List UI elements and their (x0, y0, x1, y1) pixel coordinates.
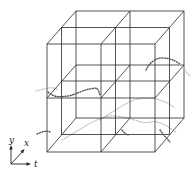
t-axis-label: t (34, 159, 38, 169)
x-axis-label: x (24, 138, 29, 148)
y-arrow-head-icon (9, 145, 12, 150)
cube-grid-diagram: y x t (0, 0, 194, 178)
t-arrow-head-icon (27, 162, 32, 165)
axis-indicator: y x t (8, 135, 38, 169)
cube-edges (47, 11, 184, 152)
x-axis-arrow (11, 151, 23, 164)
trajectory-front (37, 58, 190, 142)
y-axis-label: y (8, 135, 15, 145)
